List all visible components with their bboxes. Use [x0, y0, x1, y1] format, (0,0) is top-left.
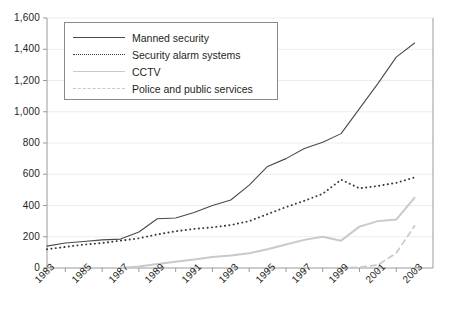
- y-axis-tick-label: 1,200: [0, 76, 40, 86]
- legend-item: Security alarm systems: [71, 46, 241, 64]
- legend-item-label: Security alarm systems: [132, 50, 241, 61]
- y-axis-ticks: [43, 18, 47, 268]
- line-solid-light-icon: [71, 67, 127, 77]
- line-solid-dark-icon: [71, 33, 127, 43]
- y-axis-tick-label: 200: [0, 232, 40, 242]
- legend-item: CCTV: [71, 63, 161, 81]
- y-axis-tick-label: 1,400: [0, 44, 40, 54]
- legend-item-label: CCTV: [132, 67, 161, 78]
- y-axis-tick-label: 400: [0, 201, 40, 211]
- legend-item: Police and public services: [71, 80, 253, 98]
- line-chart: 02004006008001,0001,2001,4001,600 198319…: [0, 0, 460, 313]
- line-dashed-light-icon: [71, 84, 127, 94]
- series-line: [47, 177, 415, 249]
- y-axis-tick-label: 0: [0, 263, 40, 273]
- y-axis-tick-label: 800: [0, 138, 40, 148]
- line-dotted-dark-icon: [71, 50, 127, 60]
- y-axis-tick-label: 600: [0, 169, 40, 179]
- legend-item: Manned security: [71, 29, 209, 47]
- y-axis-tick-label: 1,600: [0, 13, 40, 23]
- legend-item-label: Manned security: [132, 33, 209, 44]
- y-axis-tick-label: 1,000: [0, 107, 40, 117]
- chart-legend: Manned securitySecurity alarm systemsCCT…: [64, 22, 278, 100]
- legend-item-label: Police and public services: [132, 84, 253, 95]
